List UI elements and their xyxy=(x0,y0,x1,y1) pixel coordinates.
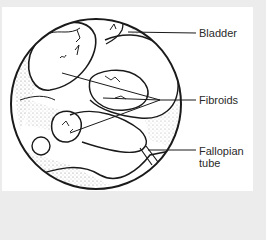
label-fibroids: Fibroids xyxy=(199,94,238,106)
label-bladder: Bladder xyxy=(199,27,237,39)
label-fallopian-tube: Fallopian tube xyxy=(199,145,244,169)
label-fallopian-line2: tube xyxy=(199,157,244,169)
label-fallopian-line1: Fallopian xyxy=(199,145,244,157)
